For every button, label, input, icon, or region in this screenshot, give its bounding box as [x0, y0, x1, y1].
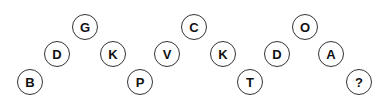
node-question: ? — [346, 69, 372, 95]
node-t: T — [237, 69, 263, 95]
node-v: V — [154, 41, 180, 67]
node-a: A — [318, 41, 344, 67]
node-k: K — [100, 41, 126, 67]
node-o: O — [292, 14, 318, 40]
node-k2: K — [210, 41, 236, 67]
node-p: P — [127, 69, 153, 95]
node-g: G — [72, 14, 98, 40]
node-c: C — [181, 14, 207, 40]
node-b: B — [17, 69, 43, 95]
node-d2: D — [264, 41, 290, 67]
node-d: D — [44, 41, 70, 67]
letter-sequence-puzzle: B D G K P V C K T D O A ? — [0, 0, 384, 102]
